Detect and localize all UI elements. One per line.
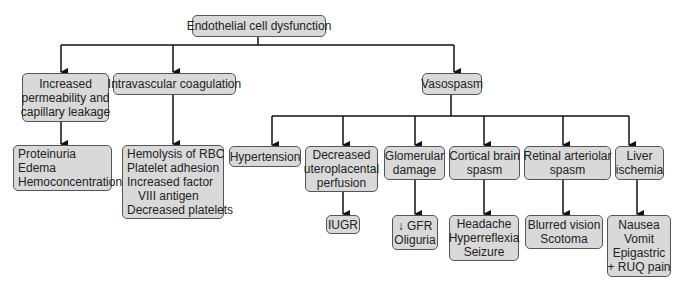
node-label: perfusion — [317, 176, 366, 190]
outcome-item: VIII antigen — [127, 189, 219, 203]
node-label: Intravascular coagulation — [108, 77, 241, 91]
node-label: Increased — [39, 77, 92, 91]
outcome-item: IUGR — [328, 218, 358, 232]
node-retinal-arteriolar-spasm: Retinal arteriolar spasm — [524, 146, 611, 180]
outcome-item: Decreased platelets — [127, 203, 219, 217]
node-glomerular-damage: Glomerular damage — [384, 146, 445, 180]
node-label: capillary leakage — [21, 105, 110, 119]
node-label: ischemia — [616, 163, 663, 177]
outcome-item: Hyperreflexia — [449, 231, 520, 245]
node-label: spasm — [467, 163, 502, 177]
node-label: Liver — [626, 149, 652, 163]
outcome-item: Increased factor — [127, 175, 219, 189]
outcome-item: Blurred vision — [528, 218, 601, 232]
outcome-item: Hemoconcentration — [18, 175, 107, 189]
node-liver-ischemia: Liver ischemia — [615, 146, 664, 180]
node-label: Hypertension — [230, 150, 301, 164]
outcome-item: Scotoma — [540, 232, 587, 246]
node-cortical-brain-spasm: Cortical brain spasm — [449, 146, 520, 180]
outcome-item: Headache — [457, 217, 512, 231]
outcome-item: Vomit — [624, 232, 654, 246]
outcome-item: ↓ GFR — [398, 219, 433, 233]
outcome-item: Hemolysis of RBC — [127, 147, 219, 161]
node-liver-outcomes: Nausea Vomit Epigastric + RUQ pain — [607, 215, 671, 277]
outcome-item: Oliguria — [394, 233, 435, 247]
outcome-item: Nausea — [618, 218, 659, 232]
outcome-item: Epigastric — [613, 246, 666, 260]
node-label: spasm — [550, 163, 585, 177]
node-increased-permeability: Increased permeability and capillary lea… — [22, 73, 109, 122]
node-label: Cortical brain — [449, 149, 520, 163]
pathophysiology-flowchart: Endothelial cell dysfunction Increased p… — [0, 0, 684, 288]
outcome-item: Proteinuria — [18, 147, 107, 161]
outcome-item: + RUQ pain — [607, 260, 670, 274]
node-iugr: IUGR — [326, 215, 360, 234]
node-endothelial-cell-dysfunction: Endothelial cell dysfunction — [192, 15, 326, 37]
outcome-item: Platelet adhesion — [127, 161, 219, 175]
node-label: damage — [393, 163, 436, 177]
node-glomerular-outcomes: ↓ GFR Oliguria — [392, 215, 438, 250]
node-coagulation-outcomes: Hemolysis of RBC Platelet adhesion Incre… — [122, 145, 224, 219]
node-cortical-outcomes: Headache Hyperreflexia Seizure — [449, 215, 519, 261]
node-intravascular-coagulation: Intravascular coagulation — [113, 73, 236, 95]
outcome-item: Edema — [18, 161, 107, 175]
node-hypertension: Hypertension — [229, 146, 301, 167]
outcome-item: Seizure — [464, 245, 505, 259]
node-permeability-outcomes: Proteinuria Edema Hemoconcentration — [13, 145, 112, 191]
node-decreased-uteroplacental-perfusion: Decreased uteroplacental perfusion — [305, 146, 378, 192]
node-label: Decreased — [312, 148, 370, 162]
node-label: permeability and — [21, 91, 109, 105]
node-label: Glomerular — [385, 149, 444, 163]
node-label: Retinal arteriolar — [523, 149, 611, 163]
node-label: uteroplacental — [304, 162, 379, 176]
node-label: Endothelial cell dysfunction — [187, 19, 332, 33]
node-vasospasm: Vasospasm — [422, 73, 482, 95]
node-label: Vasospasm — [421, 77, 483, 91]
node-retinal-outcomes: Blurred vision Scotoma — [525, 215, 603, 249]
